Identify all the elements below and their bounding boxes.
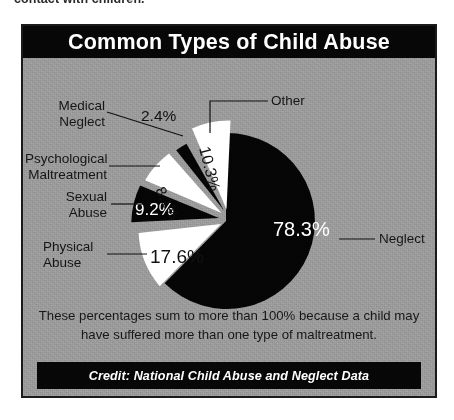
pie-chart-svg: 78.3% 17.6% 9.2% 8.1% 10.3% 2.4% [23,58,435,308]
pie-value-label-neglect: 78.3% [273,218,330,240]
callout-medical-neglect-line2: Neglect [41,114,105,130]
page-top-text-fragment: contact with children. [14,0,244,6]
callout-sexual-abuse-line1: Sexual [43,189,107,205]
chart-title: Common Types of Child Abuse [68,30,390,55]
callout-physical-abuse-line2: Abuse [43,255,107,271]
callout-neglect: Neglect [379,231,425,247]
callout-physical-abuse-line1: Physical [43,239,107,255]
callout-psychological-line2: Maltreatment [25,167,107,183]
callout-sexual-abuse: Sexual Abuse [43,189,107,220]
callout-neglect-label: Neglect [379,231,425,247]
chart-credit-bar: Credit: National Child Abuse and Neglect… [37,362,421,389]
callout-psychological-line1: Psychological [25,151,107,167]
callout-other-label: Other [271,93,305,109]
pie-value-label-medical-neglect: 2.4% [141,107,177,124]
pie-value-label-physical-abuse: 17.6% [150,246,204,267]
callout-medical-neglect-line1: Medical [41,98,105,114]
chart-note: These percentages sum to more than 100% … [35,307,423,344]
chart-title-bar: Common Types of Child Abuse [23,26,435,58]
callout-physical-abuse: Physical Abuse [43,239,107,270]
callout-psychological-maltreatment: Psychological Maltreatment [25,151,107,182]
callout-medical-neglect: Medical Neglect [41,98,105,129]
chart-figure: Common Types of Child Abuse 78.3% 17.6% … [21,24,437,398]
pie-chart-plot-area: 78.3% 17.6% 9.2% 8.1% 10.3% 2.4% Medical… [23,58,435,398]
callout-sexual-abuse-line2: Abuse [43,205,107,221]
callout-other: Other [271,93,305,109]
chart-credit-text: Credit: National Child Abuse and Neglect… [89,369,369,383]
